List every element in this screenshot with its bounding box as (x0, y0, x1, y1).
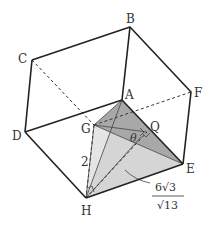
edge-CD (25, 60, 32, 132)
label-Q: Q (150, 120, 160, 134)
label-C: C (18, 52, 27, 66)
angle-theta-label: θ (130, 132, 137, 145)
label-H: H (81, 204, 91, 218)
label-A: A (124, 88, 134, 102)
fraction-denominator: √13 (157, 199, 178, 212)
label-F: F (194, 86, 202, 100)
cube-diagram: A B C D E F G H Q θ 2 6√3 √13 (0, 0, 212, 225)
label-G: G (81, 122, 91, 136)
label-B: B (126, 12, 135, 26)
edge-DH (25, 132, 86, 198)
label-D: D (12, 129, 22, 143)
edge-CG-hidden (32, 60, 94, 125)
length-2-label: 2 (81, 155, 89, 169)
fraction-numerator: 6√3 (155, 181, 176, 194)
label-E: E (186, 162, 195, 176)
